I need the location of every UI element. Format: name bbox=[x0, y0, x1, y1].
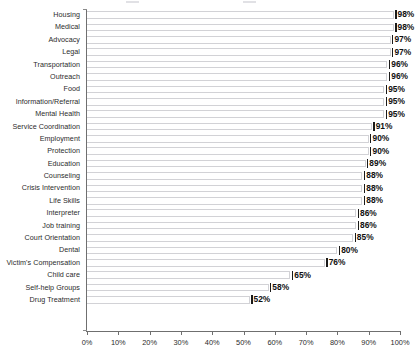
bar-value-label: 90% bbox=[373, 132, 390, 144]
bar-end-cap bbox=[339, 246, 340, 255]
category-label: Information/Referral bbox=[0, 96, 84, 108]
category-label: Employment bbox=[0, 133, 84, 145]
bar-end-cap bbox=[251, 295, 252, 304]
plot-area: HousingMedicalAdvocacyLegalTransportatio… bbox=[0, 9, 416, 364]
bar bbox=[87, 98, 384, 106]
bar-value-label: 96% bbox=[391, 70, 408, 82]
bar-value-label: 98% bbox=[398, 21, 415, 33]
bar-value-label: 52% bbox=[254, 293, 271, 305]
bar-end-cap bbox=[364, 171, 365, 180]
bar-end-cap bbox=[392, 48, 393, 57]
bar-row: 96% bbox=[87, 59, 400, 71]
x-axis-tick-label: 50% bbox=[236, 338, 251, 347]
bar bbox=[87, 197, 362, 205]
bar-row: 95% bbox=[87, 96, 400, 108]
bar-value-label: 88% bbox=[366, 169, 383, 181]
bar-value-label: 88% bbox=[366, 194, 383, 206]
category-label: Self-help Groups bbox=[0, 282, 84, 294]
bar bbox=[87, 222, 356, 230]
x-axis-tick bbox=[400, 331, 401, 335]
x-axis-tick bbox=[275, 331, 276, 335]
bar bbox=[87, 247, 337, 255]
bar-chart: HousingMedicalAdvocacyLegalTransportatio… bbox=[0, 0, 416, 364]
x-axis-tick bbox=[212, 331, 213, 335]
bar-row: 52% bbox=[87, 294, 400, 306]
x-axis-tick bbox=[181, 331, 182, 335]
bar-end-cap bbox=[389, 72, 390, 81]
bar-row: 97% bbox=[87, 46, 400, 58]
category-label: Service Coordination bbox=[0, 121, 84, 133]
bar bbox=[87, 61, 387, 69]
x-axis-tick-label: 20% bbox=[142, 338, 157, 347]
bar-row: 96% bbox=[87, 71, 400, 83]
x-axis-tick-label: 90% bbox=[361, 338, 376, 347]
bar bbox=[87, 135, 369, 143]
bar bbox=[87, 24, 394, 32]
bar-value-label: 97% bbox=[394, 33, 411, 45]
x-axis-tick-label: 80% bbox=[330, 338, 345, 347]
bar-value-label: 89% bbox=[369, 157, 386, 169]
bar bbox=[87, 73, 387, 81]
category-label: Crisis Intervention bbox=[0, 182, 84, 194]
bar-value-label: 95% bbox=[388, 83, 405, 95]
bar-row: 88% bbox=[87, 170, 400, 182]
x-axis-tick bbox=[244, 331, 245, 335]
category-label: Outreach bbox=[0, 71, 84, 83]
bar-row: 65% bbox=[87, 269, 400, 281]
bar-value-label: 97% bbox=[394, 46, 411, 58]
x-axis-tick-label: 100% bbox=[391, 338, 410, 347]
bar-end-cap bbox=[392, 35, 393, 44]
bar-end-cap bbox=[358, 221, 359, 230]
category-label: Life Skills bbox=[0, 195, 84, 207]
bar bbox=[87, 86, 384, 94]
x-axis-tick-label: 30% bbox=[173, 338, 188, 347]
bar-value-label: 98% bbox=[398, 8, 415, 20]
bar-end-cap bbox=[358, 209, 359, 218]
bar-row: 80% bbox=[87, 244, 400, 256]
category-label: Counseling bbox=[0, 170, 84, 182]
bar-value-label: 80% bbox=[341, 244, 358, 256]
category-label: Medical bbox=[0, 21, 84, 33]
bar-value-label: 76% bbox=[329, 256, 346, 268]
x-axis-tick bbox=[118, 331, 119, 335]
bar bbox=[87, 259, 325, 267]
bar bbox=[87, 209, 356, 217]
x-axis-tick-label: 10% bbox=[111, 338, 126, 347]
bar-row: 86% bbox=[87, 220, 400, 232]
x-axis-tick bbox=[306, 331, 307, 335]
bar-row: 85% bbox=[87, 232, 400, 244]
category-label: Advocacy bbox=[0, 34, 84, 46]
bar-row: 89% bbox=[87, 158, 400, 170]
category-label: Legal bbox=[0, 46, 84, 58]
bar-row: 98% bbox=[87, 21, 400, 33]
bar-value-label: 90% bbox=[373, 145, 390, 157]
title-smudge-left bbox=[126, 1, 139, 3]
category-label: Food bbox=[0, 83, 84, 95]
bar-end-cap bbox=[386, 85, 387, 94]
bar-end-cap bbox=[386, 97, 387, 106]
bar-end-cap bbox=[395, 10, 396, 19]
bar bbox=[87, 160, 366, 168]
bar-row: 98% bbox=[87, 9, 400, 21]
bar-row: 95% bbox=[87, 83, 400, 95]
x-axis-tick bbox=[150, 331, 151, 335]
bar bbox=[87, 36, 391, 44]
bar-row: 76% bbox=[87, 257, 400, 269]
category-label: Housing bbox=[0, 9, 84, 21]
bar bbox=[87, 185, 362, 193]
bar-value-label: 86% bbox=[360, 207, 377, 219]
x-axis-tick-label: 60% bbox=[267, 338, 282, 347]
bar-end-cap bbox=[389, 60, 390, 69]
bar-row: 97% bbox=[87, 34, 400, 46]
category-label: Job training bbox=[0, 220, 84, 232]
category-label: Drug Treatment bbox=[0, 294, 84, 306]
bar-row: 90% bbox=[87, 133, 400, 145]
x-axis-tick-label: 0% bbox=[82, 338, 93, 347]
bar-row: 88% bbox=[87, 195, 400, 207]
bar bbox=[87, 123, 372, 131]
bar-value-label: 95% bbox=[388, 108, 405, 120]
bar-row: 88% bbox=[87, 182, 400, 194]
bar-end-cap bbox=[370, 147, 371, 156]
bar-value-label: 91% bbox=[376, 120, 393, 132]
bar-value-label: 96% bbox=[391, 58, 408, 70]
